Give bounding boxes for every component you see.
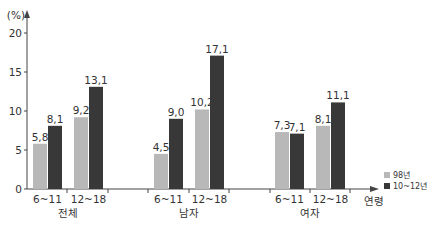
bar <box>275 132 289 189</box>
bar-chart: (%)05101520연령6~1112~18전체6~1112~18남자6~111… <box>0 0 433 228</box>
category-label: 6~11 <box>33 193 62 205</box>
y-tick-label: 15 <box>9 66 22 78</box>
bar-value-label: 11,1 <box>326 89 349 101</box>
bar-value-label: 17,1 <box>205 43 228 55</box>
bar <box>331 102 345 189</box>
legend-label: 10~12년 <box>393 181 427 191</box>
category-label: 12~18 <box>192 193 228 205</box>
y-tick-label: 5 <box>15 144 22 156</box>
bar <box>33 144 47 189</box>
bars: 5,88,19,213,14,59,010,217,17,37,18,111,1 <box>32 43 350 189</box>
category-label: 6~11 <box>275 193 304 205</box>
x-axis-arrow-icon <box>370 186 379 192</box>
y-tick-label: 20 <box>9 27 22 39</box>
bar-value-label: 8,1 <box>315 113 332 125</box>
y-tick-label: 10 <box>9 105 22 117</box>
bar-value-label: 9,2 <box>73 104 90 116</box>
category-label: 12~18 <box>71 193 107 205</box>
group-label: 여자 <box>300 207 320 219</box>
group-label: 남자 <box>179 207 199 219</box>
bar <box>89 87 103 189</box>
bar <box>169 119 183 189</box>
bar-value-label: 5,8 <box>32 131 49 143</box>
legend: 98년10~12년 <box>384 170 427 191</box>
bar-value-label: 8,1 <box>47 113 64 125</box>
legend-swatch <box>384 183 390 189</box>
y-tick-label: 0 <box>15 183 22 195</box>
group-label: 전체 <box>58 207 78 219</box>
bar <box>195 109 209 189</box>
bar <box>210 56 224 189</box>
bar <box>290 134 304 189</box>
legend-label: 98년 <box>393 170 410 180</box>
bar-value-label: 4,5 <box>153 141 170 153</box>
y-axis-unit: (%) <box>7 9 25 21</box>
category-label: 12~18 <box>313 193 349 205</box>
category-label: 6~11 <box>154 193 183 205</box>
bar-value-label: 7,1 <box>289 121 306 133</box>
bar-value-label: 13,1 <box>84 74 107 86</box>
bar <box>154 154 168 189</box>
bar <box>48 126 62 189</box>
x-axis-title: 연령 <box>364 195 384 207</box>
legend-swatch <box>384 172 390 178</box>
bar <box>316 126 330 189</box>
bar-value-label: 9,0 <box>168 106 185 118</box>
bar <box>74 117 88 189</box>
